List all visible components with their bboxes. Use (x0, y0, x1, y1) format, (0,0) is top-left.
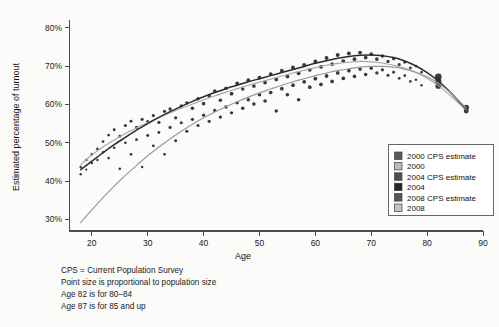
data-point (219, 98, 222, 101)
data-point (230, 111, 233, 114)
data-point (102, 140, 105, 143)
data-point (146, 134, 149, 137)
legend-item[interactable]: 2000 (395, 162, 426, 171)
data-point (269, 91, 273, 95)
data-point (347, 51, 351, 55)
data-point (141, 118, 144, 121)
data-point (409, 80, 412, 83)
data-point (375, 71, 378, 74)
legend-swatch (395, 173, 403, 181)
turnout-by-age-chart: 30%40%50%60%70%80%2030405060708090 Age E… (0, 0, 499, 327)
x-tick-label: 90 (478, 238, 488, 248)
data-point (168, 107, 171, 110)
y-tick-label: 80% (45, 23, 62, 33)
legend-swatch (395, 162, 403, 170)
x-tick-label: 80 (422, 238, 432, 248)
legend-item[interactable]: 2008 (395, 204, 426, 213)
data-point (118, 168, 121, 171)
data-point (202, 102, 206, 106)
legend-item[interactable]: 2008 CPS estimate (395, 194, 477, 203)
x-tick-label: 20 (87, 238, 97, 248)
data-point (124, 124, 127, 127)
legend-label: 2000 CPS estimate (407, 152, 476, 161)
data-point (297, 98, 301, 102)
data-point (230, 92, 234, 96)
data-point (353, 57, 357, 61)
data-point (403, 74, 406, 77)
data-point (302, 80, 306, 84)
legend-label: 2008 (407, 204, 425, 213)
data-point (185, 130, 188, 133)
data-point (325, 56, 329, 60)
data-point (169, 126, 172, 129)
data-point (252, 102, 255, 105)
legend-item[interactable]: 2000 CPS estimate (395, 152, 477, 161)
legend-swatch (395, 194, 403, 202)
data-point (130, 153, 133, 156)
legend: 2000 CPS estimate20002004 CPS estimate20… (389, 145, 494, 216)
data-point (241, 107, 244, 110)
x-tick-label: 70 (367, 238, 377, 248)
legend-label: 2004 (407, 183, 425, 192)
data-point (219, 115, 222, 118)
data-point (336, 71, 340, 75)
figure-container: 30%40%50%60%70%80%2030405060708090 Age E… (0, 0, 499, 327)
data-point (180, 121, 183, 124)
data-point (152, 144, 155, 147)
data-point (275, 109, 278, 112)
footnote-line: Age 82 is for 80–84 (61, 290, 132, 299)
footnote-line: Age 87 is for 85 and up (61, 302, 146, 311)
data-point (353, 75, 357, 79)
data-point (157, 131, 160, 134)
data-point (398, 77, 401, 80)
data-point (370, 67, 373, 70)
data-point (252, 84, 256, 88)
data-point (420, 84, 422, 86)
x-tick-label: 40 (199, 238, 209, 248)
data-point (129, 120, 132, 123)
data-point (174, 139, 177, 142)
data-point (263, 99, 267, 103)
data-point (202, 113, 205, 116)
y-tick-label: 60% (45, 99, 62, 109)
data-point (398, 63, 401, 66)
x-axis-title: Age (235, 251, 251, 261)
data-point (286, 93, 290, 97)
legend-label: 2000 (407, 162, 425, 171)
data-point (392, 71, 395, 74)
data-point (163, 153, 166, 156)
legend-label: 2008 CPS estimate (407, 194, 476, 203)
data-point (325, 74, 329, 78)
data-point (124, 141, 127, 144)
data-point (375, 57, 379, 61)
data-point (85, 169, 87, 171)
data-point (280, 87, 284, 91)
data-point (336, 53, 340, 57)
data-point (330, 80, 334, 84)
y-axis-title: Estimated percentage of turnout (11, 62, 21, 191)
data-point (341, 76, 345, 80)
data-point (208, 120, 211, 123)
data-point (163, 110, 166, 113)
data-point (107, 134, 110, 137)
data-point (152, 114, 155, 117)
data-point (313, 77, 317, 81)
legend-item[interactable]: 2004 (395, 183, 426, 192)
legend-swatch (395, 152, 403, 160)
data-point (107, 157, 110, 160)
data-point (386, 60, 389, 63)
data-point (196, 124, 199, 127)
legend-item[interactable]: 2004 CPS estimate (395, 173, 477, 182)
data-point (319, 83, 323, 87)
data-point (386, 74, 389, 77)
data-point (96, 159, 98, 161)
data-point (191, 118, 194, 121)
legend-swatch (395, 183, 403, 191)
data-point (364, 73, 368, 77)
data-point (157, 121, 160, 124)
data-point (135, 138, 138, 141)
data-point (113, 146, 116, 149)
footnote-line: CPS = Current Population Survey (61, 266, 184, 275)
legend-swatch (395, 204, 403, 212)
data-point (247, 98, 251, 102)
